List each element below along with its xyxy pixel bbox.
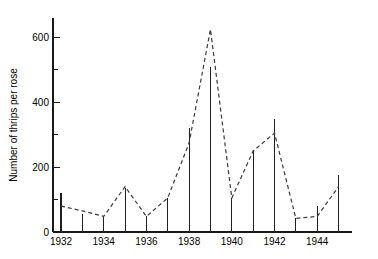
y-axis-title: Number of thrips per rose <box>8 68 19 182</box>
x-tick-label: 1936 <box>135 236 158 247</box>
x-tick-label: 1940 <box>221 236 244 247</box>
thrips-chart: 0200400600 1932193419361938194019421944 … <box>0 0 378 259</box>
series-dashed-line <box>61 29 339 218</box>
x-tick-label: 1942 <box>263 236 286 247</box>
y-tick-label: 600 <box>32 32 49 43</box>
x-tick-label: 1944 <box>306 236 329 247</box>
y-tick-label: 0 <box>43 227 49 238</box>
chart-canvas: 0200400600 1932193419361938194019421944 … <box>0 0 378 259</box>
x-axis: 1932193419361938194019421944 <box>50 225 352 247</box>
mean-polyline <box>61 29 339 218</box>
x-tick-label: 1932 <box>50 236 73 247</box>
x-tick-label: 1934 <box>93 236 116 247</box>
y-tick-label: 400 <box>32 97 49 108</box>
range-bars <box>61 67 339 232</box>
y-tick-label: 200 <box>32 162 49 173</box>
x-tick-label: 1938 <box>178 236 201 247</box>
y-axis: 0200400600 <box>32 18 60 238</box>
